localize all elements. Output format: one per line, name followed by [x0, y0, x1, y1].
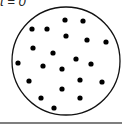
particle — [73, 56, 78, 61]
particle — [77, 95, 82, 100]
particles — [15, 17, 108, 110]
particle — [51, 105, 56, 110]
particle — [59, 86, 64, 91]
particle — [63, 33, 68, 38]
container-circle — [12, 7, 120, 115]
particle — [40, 63, 45, 68]
particle — [30, 45, 35, 50]
particle — [88, 61, 93, 66]
particle-container-diagram — [0, 0, 122, 125]
particle — [29, 26, 34, 31]
particle — [103, 39, 108, 44]
particle — [77, 77, 82, 82]
particle — [59, 66, 64, 71]
particle — [84, 37, 89, 42]
particle — [38, 95, 43, 100]
particle — [50, 50, 55, 55]
particle — [80, 18, 85, 23]
particle — [15, 60, 20, 65]
particle — [44, 26, 49, 31]
particle — [62, 17, 67, 22]
particle — [99, 79, 104, 84]
particle — [26, 78, 31, 83]
